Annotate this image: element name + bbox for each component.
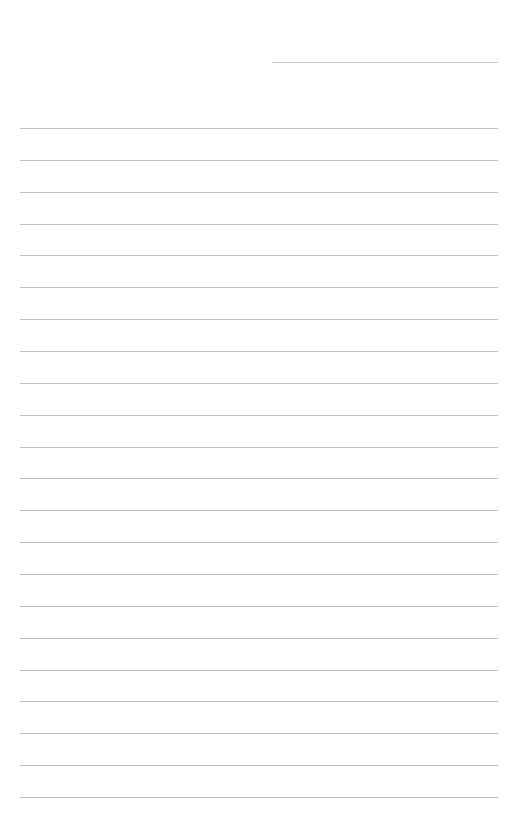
writing-line[interactable] <box>20 638 498 639</box>
writing-line[interactable] <box>20 383 498 384</box>
writing-line[interactable] <box>20 128 498 129</box>
writing-line[interactable] <box>20 287 498 288</box>
writing-line[interactable] <box>20 192 498 193</box>
writing-line[interactable] <box>20 797 498 798</box>
writing-line[interactable] <box>20 765 498 766</box>
writing-line[interactable] <box>20 574 498 575</box>
writing-line[interactable] <box>20 319 498 320</box>
writing-line[interactable] <box>20 606 498 607</box>
writing-line[interactable] <box>20 351 498 352</box>
writing-line[interactable] <box>20 160 498 161</box>
writing-line[interactable] <box>20 542 498 543</box>
writing-line[interactable] <box>20 510 498 511</box>
bottom-margin <box>0 801 505 831</box>
writing-line[interactable] <box>20 224 498 225</box>
ruled-page <box>0 0 505 831</box>
writing-line[interactable] <box>20 670 498 671</box>
writing-area[interactable] <box>0 0 505 831</box>
writing-line[interactable] <box>20 415 498 416</box>
writing-line[interactable] <box>20 733 498 734</box>
writing-line[interactable] <box>20 478 498 479</box>
writing-line[interactable] <box>20 701 498 702</box>
writing-line[interactable] <box>20 447 498 448</box>
writing-line[interactable] <box>20 255 498 256</box>
